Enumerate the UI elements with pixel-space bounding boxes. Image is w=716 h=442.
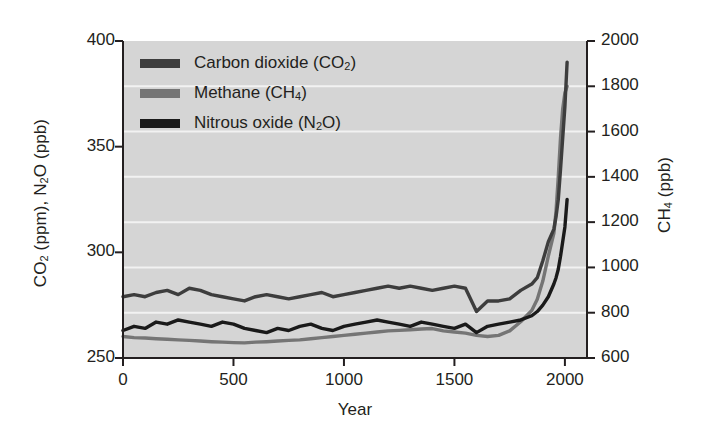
y-right-title-units: (ppb) xyxy=(655,157,674,202)
legend-item: Methane (CH4) xyxy=(140,78,356,108)
legend-label: Nitrous oxide (N2O) xyxy=(194,113,341,133)
y-axis-left-tick-label: 350 xyxy=(87,136,115,156)
y-axis-right-tick-label: 1400 xyxy=(601,166,639,186)
y-axis-right-tick-label: 1200 xyxy=(601,211,639,231)
x-axis-tick-label: 1000 xyxy=(304,370,384,390)
legend-label: Carbon dioxide (CO2) xyxy=(194,53,356,73)
y-left-title-end: O (ppb) xyxy=(31,119,50,177)
y-left-title-n2o-sub: 2 xyxy=(38,177,50,183)
y-left-title-mid: (ppm), N xyxy=(31,183,50,255)
x-axis-tick-label: 500 xyxy=(193,370,273,390)
y-axis-right-tick-label: 1800 xyxy=(601,75,639,95)
legend-swatch xyxy=(140,119,180,128)
y-axis-left-title: CO2 (ppm), N2O (ppb) xyxy=(31,78,51,328)
y-left-title-co2-sub: 2 xyxy=(38,255,50,261)
x-axis-title: Year xyxy=(123,400,587,420)
x-axis-tick-label: 2000 xyxy=(525,370,605,390)
y-axis-right-tick-label: 1000 xyxy=(601,256,639,276)
y-axis-left-tick-label: 250 xyxy=(87,347,115,367)
y-axis-left-tick-label: 300 xyxy=(87,241,115,261)
y-axis-right-tick-label: 800 xyxy=(601,302,629,322)
y-axis-right-tick-label: 2000 xyxy=(601,30,639,50)
y-axis-left-tick-label: 400 xyxy=(87,30,115,50)
legend-swatch xyxy=(140,89,180,98)
y-axis-right-tick-label: 600 xyxy=(601,347,629,367)
x-axis-tick-label: 0 xyxy=(83,370,163,390)
chart-legend: Carbon dioxide (CO2)Methane (CH4)Nitrous… xyxy=(140,48,356,138)
legend-label: Methane (CH4) xyxy=(194,83,307,103)
y-right-title-ch4-sub: 4 xyxy=(662,202,674,208)
figure-greenhouse-gas-concentrations: CO2 (ppm), N2O (ppb) CH4 (ppb) Year 2503… xyxy=(0,0,716,442)
x-axis-tick-label: 1500 xyxy=(414,370,494,390)
legend-item: Carbon dioxide (CO2) xyxy=(140,48,356,78)
y-axis-right-title: CH4 (ppb) xyxy=(655,100,675,290)
y-axis-right-tick-label: 1600 xyxy=(601,121,639,141)
legend-item: Nitrous oxide (N2O) xyxy=(140,108,356,138)
legend-swatch xyxy=(140,59,180,68)
y-right-title-ch4: CH xyxy=(655,208,674,233)
y-left-title-co2: CO xyxy=(31,261,50,287)
